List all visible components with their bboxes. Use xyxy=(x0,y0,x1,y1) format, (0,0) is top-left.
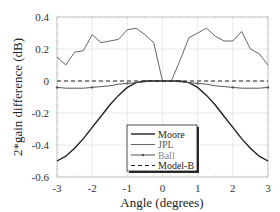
y-tick-label: 0.4 xyxy=(35,11,49,23)
legend-label: Model-B xyxy=(158,160,194,171)
x-tick-label: -1 xyxy=(123,182,132,194)
x-tick-label: 2 xyxy=(230,182,236,194)
x-tick-label: -2 xyxy=(88,182,97,194)
y-tick-label: 0.2 xyxy=(35,43,49,55)
y-tick-label: -0.6 xyxy=(32,171,50,183)
legend: MooreJPLBallModel-B xyxy=(127,125,199,173)
legend-label: Moore xyxy=(158,129,185,140)
y-tick-label: 0 xyxy=(44,75,50,87)
y-axis-ticks: 0.40.20-0.2-0.4-0.6 xyxy=(32,11,50,183)
legend-label: Ball xyxy=(158,150,175,161)
line-chart: 0.40.20-0.2-0.4-0.6 -3-2-10123 Angle (de… xyxy=(0,0,280,212)
legend-label: JPL xyxy=(158,139,174,150)
y-tick-label: -0.2 xyxy=(32,107,49,119)
x-axis-ticks: -3-2-10123 xyxy=(52,182,271,194)
x-axis-label: Angle (degrees) xyxy=(120,195,203,210)
x-tick-label: 0 xyxy=(160,182,166,194)
x-tick-label: 1 xyxy=(195,182,201,194)
x-tick-label: -3 xyxy=(52,182,62,194)
y-tick-label: -0.4 xyxy=(32,139,50,151)
y-axis-label: 2*gain difference (dB) xyxy=(10,38,25,156)
x-tick-label: 3 xyxy=(265,182,271,194)
